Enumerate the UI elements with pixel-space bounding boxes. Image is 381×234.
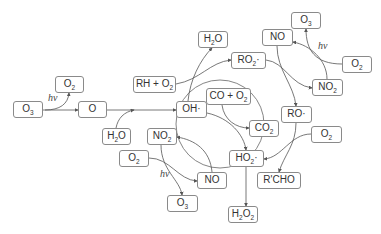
node-o3-left: O3 (13, 101, 43, 118)
subscript: 2 (329, 134, 333, 141)
node-label: NO (205, 174, 220, 185)
subscript: 2 (170, 84, 174, 91)
photolysis-label-topright: hν (318, 40, 327, 51)
node-rcho: R'CHO (257, 172, 301, 189)
node-o2-topleft: O2 (55, 76, 84, 93)
node-o2-bottomleft: O2 (119, 150, 149, 167)
node-o2-farright: O2 (311, 126, 342, 143)
arrow-h2o-to-oh (116, 110, 134, 128)
radical-dot: · (254, 152, 257, 163)
node-label: OH· (182, 103, 200, 114)
photolysis-label-left: hν (48, 92, 57, 103)
node-co-o2: CO + O2 (206, 88, 251, 105)
node-co2: CO2 (249, 120, 279, 137)
arrow-o2-to-ho2 (264, 134, 311, 159)
node-o2-right: O2 (342, 56, 372, 73)
node-no-top: NO (262, 29, 293, 46)
subscript: 2 (270, 128, 274, 135)
subscript: 2 (244, 96, 248, 103)
node-ro2-radical: RO2· (231, 52, 266, 69)
node-label: NO (153, 130, 168, 141)
node-h2o-bottomleft: H2O (102, 128, 131, 145)
node-label: NO (270, 31, 285, 42)
node-label: HO (236, 152, 251, 163)
node-no2-bottomleft: NO2 (147, 128, 177, 145)
node-label: RH + O (136, 78, 170, 89)
node-no-bottom: NO (197, 172, 227, 189)
subscript: 2 (251, 214, 255, 221)
node-no2-right: NO2 (312, 79, 343, 96)
node-label: RO· (287, 108, 305, 119)
subscript: 3 (185, 203, 189, 210)
subscript: 2 (239, 214, 243, 221)
subscript: 3 (308, 20, 312, 27)
subscript: 2 (72, 84, 76, 91)
subscript: 3 (30, 109, 34, 116)
radical-dot: · (256, 54, 259, 65)
node-ro-radical: RO· (281, 106, 312, 123)
arrow-no-to-no2 (177, 137, 212, 172)
node-rh-o2: RH + O2 (133, 76, 176, 93)
node-o3-topright: O3 (291, 12, 321, 29)
node-label: NO (318, 81, 333, 92)
node-h2o-top: H2O (198, 31, 228, 48)
node-label: R'CHO (263, 174, 294, 185)
node-ho2-radical: HO2· (229, 150, 264, 167)
node-label: CO + O (210, 90, 244, 101)
subscript: 2 (359, 64, 363, 71)
node-label: O (118, 130, 126, 141)
node-o-atom: O (78, 101, 107, 118)
node-label: CO (255, 122, 270, 133)
node-label: O (215, 33, 223, 44)
photolysis-label-bottom: hν (160, 168, 169, 179)
arrow-ro-to-rcho (279, 123, 296, 172)
arrow-no-to-ro (277, 46, 296, 106)
node-label: O (89, 103, 97, 114)
arrow-co-to-co2 (222, 105, 249, 128)
arrow-oh-to-ho2 (207, 113, 246, 150)
subscript: 2 (136, 158, 140, 165)
node-o3-bottom: O3 (167, 195, 198, 212)
atmospheric-chemistry-diagram: O3 O2 O RH + O2 H2O RO2· NO O3 O2 NO2 OH… (0, 0, 381, 234)
subscript: 2 (333, 87, 337, 94)
node-label: RO (238, 54, 253, 65)
subscript: 2 (168, 136, 172, 143)
node-oh-radical: OH· (176, 101, 207, 118)
node-h2o2: H2O2 (228, 206, 258, 223)
